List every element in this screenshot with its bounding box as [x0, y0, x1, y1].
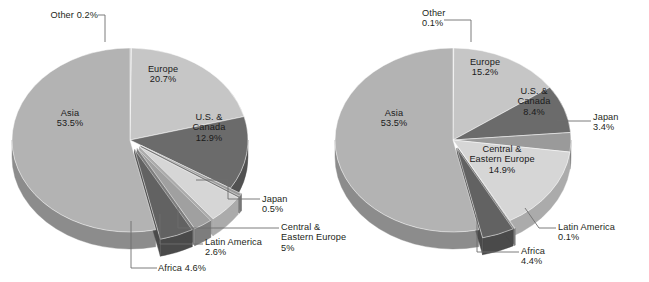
label-africa-right: Africa4.4%: [521, 246, 577, 267]
label-other-left: Other 0.2%: [18, 10, 98, 20]
pie-chart-left: Other 0.2% Europe20.7% U.S. &Canada12.9%…: [0, 0, 325, 282]
label-latin-america-right: Latin America0.1%: [558, 222, 649, 243]
label-asia-left: Asia53.5%: [41, 108, 99, 129]
pie-chart-right: Other0.1% Europe15.2% U.S. &Canada8.4% A…: [325, 0, 649, 282]
label-latin-america-left: Latin America2.6%: [205, 237, 281, 258]
label-europe-right: Europe15.2%: [453, 57, 517, 78]
label-other-right: Other0.1%: [422, 8, 474, 29]
label-asia-right: Asia53.5%: [365, 108, 423, 129]
label-us-canada-right: U.S. &Canada8.4%: [506, 86, 562, 117]
label-us-canada-left: U.S. &Canada12.9%: [178, 112, 240, 143]
label-africa-left: Africa 4.6%: [158, 263, 248, 273]
label-japan-left: Japan0.5%: [262, 194, 320, 215]
two-pie-chart-figure: Other 0.2% Europe20.7% U.S. &Canada12.9%…: [0, 0, 649, 282]
label-central-eastern-europe-right: Central &Eastern Europe14.9%: [453, 144, 551, 175]
label-europe-left: Europe20.7%: [130, 64, 196, 85]
label-japan-right: Japan3.4%: [593, 112, 645, 133]
